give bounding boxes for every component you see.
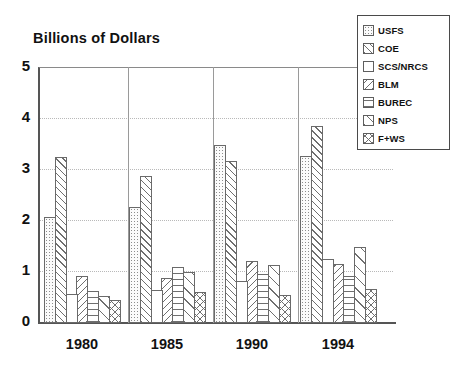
bar-burec-1985 xyxy=(172,267,184,323)
legend-swatch-icon xyxy=(363,97,374,108)
legend-swatch-icon xyxy=(363,61,374,72)
legend-label: BLM xyxy=(378,79,399,90)
y-axis-tick-label: 0 xyxy=(6,312,30,329)
legend-item: BUREC xyxy=(363,94,449,111)
bar-f-ws-1990 xyxy=(279,295,291,323)
bar-coe-1985 xyxy=(140,176,152,323)
y-axis-tick-label: 2 xyxy=(6,210,30,227)
bar-usfs-1980 xyxy=(44,217,56,323)
bar-coe-1990 xyxy=(225,161,237,323)
legend-item: NPS xyxy=(363,112,449,129)
bar-coe-1980 xyxy=(55,157,67,323)
bar-scs-nrcs-1994 xyxy=(322,259,334,323)
y-axis-tick-label: 3 xyxy=(6,159,30,176)
group-separator xyxy=(298,67,299,323)
legend-swatch-icon xyxy=(363,43,374,54)
legend-label: NPS xyxy=(378,115,398,126)
legend-item: COE xyxy=(363,40,449,57)
y-axis-tick-label: 1 xyxy=(6,261,30,278)
legend-swatch-icon xyxy=(363,79,374,90)
chart-title: Billions of Dollars xyxy=(33,30,160,46)
bar-nps-1990 xyxy=(268,265,280,323)
x-axis-tick-label: 1990 xyxy=(210,336,294,352)
bar-usfs-1994 xyxy=(300,156,312,323)
bar-coe-1994 xyxy=(311,126,323,323)
bar-nps-1994 xyxy=(354,247,366,324)
legend-label: USFS xyxy=(378,25,404,36)
bar-scs-nrcs-1990 xyxy=(236,281,248,323)
legend-item: F+WS xyxy=(363,130,449,147)
bar-nps-1985 xyxy=(183,272,195,324)
y-axis-tick-label: 4 xyxy=(6,108,30,125)
bar-scs-nrcs-1980 xyxy=(66,294,78,323)
legend-swatch-icon xyxy=(363,25,374,36)
bar-usfs-1990 xyxy=(214,145,226,324)
bar-f-ws-1980 xyxy=(109,300,121,323)
bar-group xyxy=(214,67,298,323)
legend-label: SCS/NRCS xyxy=(378,61,428,72)
legend-swatch-icon xyxy=(363,133,374,144)
legend-item: USFS xyxy=(363,22,449,39)
legend: USFSCOESCS/NRCSBLMBURECNPSF+WS xyxy=(357,15,450,150)
bar-burec-1990 xyxy=(257,274,269,323)
bar-usfs-1985 xyxy=(129,207,141,323)
x-axis-tick-label: 1994 xyxy=(296,336,380,352)
legend-label: COE xyxy=(378,43,399,54)
bar-blm-1985 xyxy=(161,278,173,323)
bar-scs-nrcs-1985 xyxy=(151,290,163,323)
bar-blm-1980 xyxy=(76,276,88,323)
bar-burec-1994 xyxy=(343,276,355,323)
bar-group xyxy=(44,67,128,323)
legend-label: BUREC xyxy=(378,97,412,108)
legend-swatch-icon xyxy=(363,115,374,126)
bar-burec-1980 xyxy=(87,291,99,323)
x-axis-tick-label: 1980 xyxy=(40,336,124,352)
bar-f-ws-1994 xyxy=(365,289,377,323)
bar-blm-1994 xyxy=(332,264,344,323)
bar-f-ws-1985 xyxy=(194,292,206,323)
y-axis-tick-label: 5 xyxy=(6,57,30,74)
x-axis-tick-label: 1985 xyxy=(125,336,209,352)
legend-item: BLM xyxy=(363,76,449,93)
bar-nps-1980 xyxy=(98,296,110,323)
bar-chart: Billions of Dollars 012345 1980198519901… xyxy=(0,0,457,382)
bar-blm-1990 xyxy=(246,261,258,323)
legend-item: SCS/NRCS xyxy=(363,58,449,75)
legend-label: F+WS xyxy=(378,133,405,144)
bar-group xyxy=(129,67,213,323)
